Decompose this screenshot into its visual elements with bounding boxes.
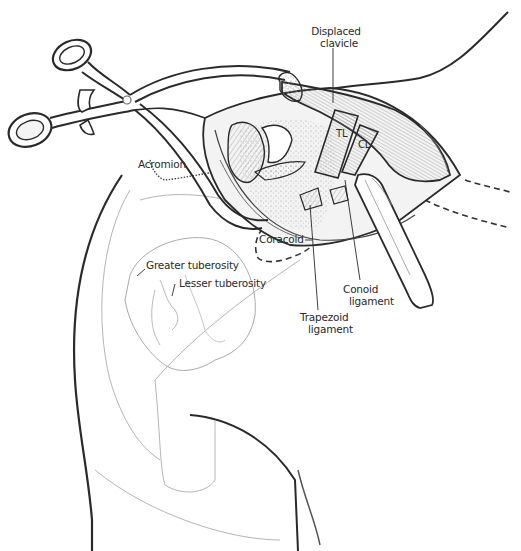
leader-lesser-tuberosity [172, 284, 175, 296]
neck-outline [325, 12, 508, 90]
label-displaced-clavicle-line2: clavicle [306, 37, 366, 49]
anatomical-illustration [0, 0, 521, 551]
humeral-head [125, 238, 255, 371]
label-conoid-line1: Conoid [343, 283, 394, 295]
label-trapezoid-line2: ligament [300, 323, 353, 335]
label-trapezoid-line1: Trapezoid [300, 311, 353, 323]
label-conoid-ligament: Conoid ligament [343, 283, 394, 307]
leader-greater-tuberosity [137, 269, 145, 276]
label-conoid-line2: ligament [343, 295, 394, 307]
label-coracoid: Coracoid [259, 233, 304, 245]
label-displaced-clavicle: Displaced clavicle [306, 25, 366, 49]
label-trapezoid-ligament: Trapezoid ligament [300, 311, 353, 335]
label-acromion: Acromion [138, 158, 186, 170]
label-tl: TL [336, 128, 347, 140]
label-lesser-tuberosity: Lesser tuberosity [179, 277, 266, 289]
label-greater-tuberosity: Greater tuberosity [146, 259, 239, 271]
label-displaced-clavicle-line1: Displaced [306, 25, 366, 37]
label-cl: CL [358, 139, 370, 151]
